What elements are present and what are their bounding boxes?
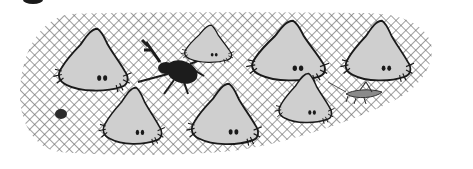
pebble-icon: [55, 109, 67, 119]
illustration: [0, 0, 473, 169]
